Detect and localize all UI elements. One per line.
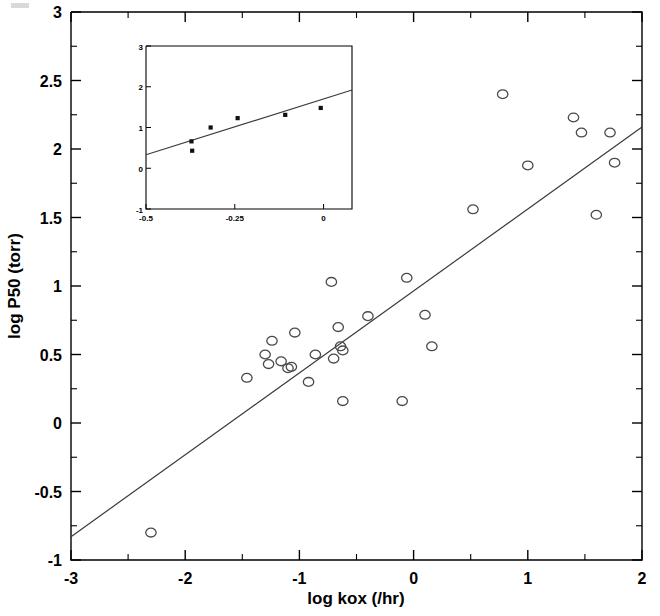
y-axis-label: log P50 (torr) bbox=[5, 233, 24, 339]
x-tick-label: -3 bbox=[64, 570, 78, 587]
scan-artifact bbox=[11, 3, 29, 8]
plot-svg: -3-2-1012-1-0.500.511.522.53 log kox (/h… bbox=[0, 0, 660, 616]
inset-plot: -0.5-0.250-10123 bbox=[136, 43, 352, 224]
y-tick-label: 2 bbox=[53, 141, 62, 158]
y-tick-label: 1.5 bbox=[40, 210, 62, 227]
x-tick-label: 1 bbox=[523, 570, 532, 587]
x-axis-label: log kox (/hr) bbox=[307, 589, 404, 608]
y-tick-label: 3 bbox=[53, 4, 62, 21]
x-tick-label: 2 bbox=[638, 570, 647, 587]
x-tick-label: 0 bbox=[409, 570, 418, 587]
inset-data-point bbox=[319, 106, 323, 110]
inset-y-tick-label: -1 bbox=[136, 206, 144, 215]
y-tick-label: 0.5 bbox=[40, 347, 62, 364]
y-tick-label: 2.5 bbox=[40, 73, 62, 90]
inset-data-point bbox=[209, 125, 213, 129]
inset-y-tick-label: 3 bbox=[139, 43, 144, 52]
y-tick-label: -1 bbox=[48, 552, 62, 569]
figure-scatter-plot: -3-2-1012-1-0.500.511.522.53 log kox (/h… bbox=[0, 0, 660, 616]
inset-y-tick-label: 2 bbox=[139, 83, 144, 92]
inset-data-point bbox=[236, 116, 240, 120]
inset-data-point bbox=[190, 149, 194, 153]
x-tick-label: -2 bbox=[178, 570, 192, 587]
inset-data-point bbox=[283, 113, 287, 117]
inset-x-tick-label: -0.5 bbox=[139, 214, 153, 223]
inset-data-point bbox=[189, 139, 193, 143]
x-tick-label: -1 bbox=[292, 570, 306, 587]
inset-background bbox=[146, 46, 352, 209]
y-tick-label: -0.5 bbox=[34, 484, 62, 501]
y-tick-label: 0 bbox=[53, 415, 62, 432]
inset-y-tick-label: 1 bbox=[139, 124, 144, 133]
inset-x-tick-label: 0 bbox=[321, 214, 326, 223]
y-tick-label: 1 bbox=[53, 278, 62, 295]
inset-x-tick-label: -0.25 bbox=[226, 214, 245, 223]
inset-y-tick-label: 0 bbox=[139, 165, 144, 174]
